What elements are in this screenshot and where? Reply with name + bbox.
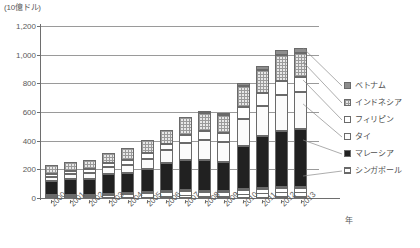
bar-segment (141, 169, 154, 192)
bar-segment (102, 153, 115, 163)
stacked-bar-chart: (10億ドル) 02004006008001,0001,200 20002001… (0, 0, 420, 248)
bar-segment (64, 174, 77, 179)
bar-segment (102, 167, 115, 174)
y-tick-mark (37, 26, 41, 27)
legend-swatch-icon (344, 150, 351, 157)
bar-segment (64, 162, 77, 171)
bar-group (141, 26, 154, 198)
plot-area (41, 26, 319, 198)
bar-segment (121, 148, 134, 160)
bar-segment (217, 115, 230, 133)
bar-segment (179, 135, 192, 143)
bar-segment (237, 107, 250, 119)
bar-segment (275, 55, 288, 81)
bar-segment (198, 140, 211, 160)
bar-group (237, 26, 250, 198)
bar-segment (237, 119, 250, 146)
bar-segment (64, 171, 77, 174)
bar-segment (275, 81, 288, 95)
bar-segment (121, 165, 134, 173)
legend-label: マレーシア (355, 147, 394, 158)
bar-segment (256, 136, 269, 188)
y-tick-label: 1,000 (0, 50, 36, 59)
bar-segment (83, 169, 96, 172)
bar-segment (294, 48, 307, 53)
unit-caption: (10億ドル) (4, 1, 41, 12)
bar-segment (256, 106, 269, 136)
y-tick-label: 400 (0, 136, 36, 145)
y-tick-mark (37, 112, 41, 113)
bar-segment (141, 159, 154, 169)
bar-group (294, 26, 307, 198)
bar-segment (237, 83, 250, 86)
legend-item-2[interactable]: フィリピン (344, 112, 420, 129)
bar-group (102, 26, 115, 198)
bar-segment (256, 66, 269, 70)
bar-segment (294, 129, 307, 186)
y-tick-mark (37, 55, 41, 56)
legend-label: フィリピン (355, 113, 394, 124)
bar-segment (294, 53, 307, 77)
bar-segment (83, 179, 96, 195)
bar-group (179, 26, 192, 198)
bar-segment (237, 146, 250, 189)
legend-item-5[interactable]: シンガポール (344, 163, 420, 180)
bar-segment (45, 165, 58, 174)
bar-group (121, 26, 134, 198)
bar-group (217, 26, 230, 198)
bar-segment (179, 160, 192, 190)
bar-segment (160, 163, 173, 191)
bar-segment (198, 160, 211, 190)
bar-group (160, 26, 173, 198)
bar-segment (102, 163, 115, 167)
y-tick-label: 200 (0, 165, 36, 174)
bar-segment (102, 174, 115, 194)
bar-segment (45, 177, 58, 181)
y-tick-mark (37, 141, 41, 142)
legend-item-0[interactable]: ベトナム (344, 78, 420, 95)
bar-segment (275, 50, 288, 55)
bar-segment (275, 131, 288, 187)
bar-segment (198, 111, 211, 113)
x-axis-title: 年 (345, 214, 353, 225)
bar-segment (217, 142, 230, 162)
bar-segment (256, 70, 269, 93)
bar-segment (141, 140, 154, 153)
bar-segment (121, 160, 134, 165)
bar-segment (160, 130, 173, 144)
bar-segment (121, 173, 134, 193)
bar-segment (256, 93, 269, 106)
bar-segment (294, 77, 307, 92)
bar-group (83, 26, 96, 198)
bar-segment (217, 113, 230, 115)
bar-segment (237, 86, 250, 108)
bar-segment (198, 113, 211, 132)
legend-item-1[interactable]: インドネシア (344, 95, 420, 112)
bar-segment (160, 150, 173, 163)
legend-swatch-icon (344, 116, 351, 123)
y-tick-mark (37, 198, 41, 199)
bar-segment (160, 144, 173, 150)
y-tick-label: 800 (0, 79, 36, 88)
legend-label: タイ (355, 130, 370, 141)
legend-swatch-icon (344, 167, 351, 174)
legend-swatch-icon (344, 99, 351, 106)
y-tick-label: 600 (0, 108, 36, 117)
bar-group (275, 26, 288, 198)
bar-segment (217, 133, 230, 142)
y-tick-label: 1,200 (0, 22, 36, 31)
bar-segment (198, 131, 211, 140)
bar-group (198, 26, 211, 198)
legend-item-3[interactable]: タイ (344, 129, 420, 146)
bar-segment (45, 174, 58, 177)
bar-segment (83, 173, 96, 179)
bar-segment (64, 179, 77, 194)
y-tick-mark (37, 169, 41, 170)
x-axis-tick-labels: 2000200120022003200420052006200720082009… (41, 200, 341, 246)
legend-item-4[interactable]: マレーシア (344, 146, 420, 163)
bar-segment (83, 160, 96, 170)
bar-group (45, 26, 58, 198)
bar-segment (45, 181, 58, 195)
chart-legend: ベトナムインドネシアフィリピンタイマレーシアシンガポール (344, 78, 420, 180)
bar-segment (294, 92, 307, 129)
